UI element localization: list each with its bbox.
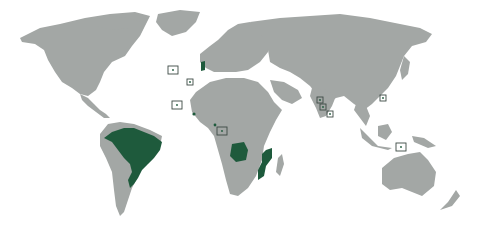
australia (382, 152, 436, 196)
guinea-bissau-highlight (192, 112, 195, 115)
arabia (270, 80, 302, 104)
central-america (80, 94, 110, 118)
southeast-asia (354, 104, 370, 126)
marker-dot (329, 113, 331, 115)
new-zealand (440, 190, 460, 210)
marker-dot (322, 106, 324, 108)
world-map-svg (0, 0, 477, 231)
equatorial-guinea-highlight (214, 124, 217, 127)
marker-dot (221, 130, 223, 132)
marker-dot (319, 99, 321, 101)
new-guinea (412, 136, 436, 148)
marker-dot (382, 97, 384, 99)
africa (190, 78, 282, 196)
borneo (378, 124, 392, 140)
marker-dot (189, 81, 191, 83)
world-map (0, 0, 477, 231)
marker-dot (172, 69, 174, 71)
portugal-highlight (201, 61, 205, 71)
greenland (156, 10, 200, 36)
madagascar (276, 154, 284, 176)
marker-dot (176, 104, 178, 106)
marker-dot (400, 146, 402, 148)
